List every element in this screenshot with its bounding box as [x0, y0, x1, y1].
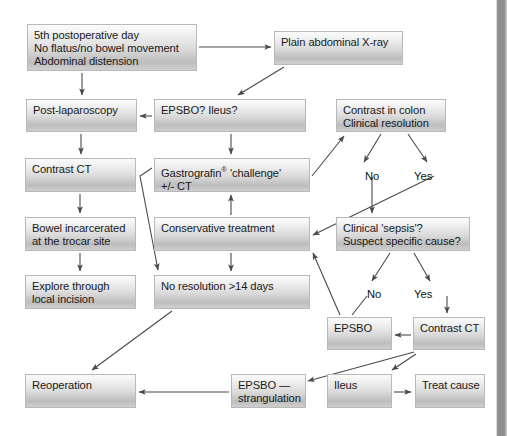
edge-n14-to-n17: [392, 354, 416, 370]
node-n5[interactable]: Contrast in colon Clinical resolution: [336, 99, 446, 132]
edge-label-l1: No: [365, 170, 379, 182]
edge-n12-to-n15: [92, 311, 172, 370]
flowchart-canvas: 5th postoperative day No flatus/no bowel…: [0, 0, 507, 436]
edge-n10-to-l4: [414, 253, 430, 281]
node-n10[interactable]: Clinical 'sepsis'? Suspect specific caus…: [336, 217, 470, 251]
edge-label-l3: No: [367, 288, 381, 300]
node-n16[interactable]: EPSBO — strangulation: [231, 374, 306, 408]
node-n9[interactable]: Conservative treatment: [154, 217, 310, 251]
edge-n5-to-l2: [408, 134, 427, 162]
node-n12[interactable]: No resolution >14 days: [154, 275, 310, 309]
edge-n13-to-n9: [313, 253, 340, 315]
edge-n7-to-n5: [312, 136, 344, 176]
registered-trademark-icon: ®: [221, 165, 227, 174]
node-n3[interactable]: Post-laparoscopy: [26, 99, 137, 132]
node-n11[interactable]: Explore through local incision: [25, 275, 136, 309]
edge-label-l4: Yes: [414, 288, 432, 300]
page-edge-band: [495, 0, 507, 436]
edge-label-l2: Yes: [414, 170, 432, 182]
node-n4[interactable]: EPSBO? Ileus?: [154, 99, 306, 132]
edge-l3-to-n13: [352, 296, 367, 315]
edge-n5-to-l1: [364, 134, 381, 162]
node-n15[interactable]: Reoperation: [25, 374, 136, 408]
node-n8[interactable]: Bowel incarcerated at the trocar site: [25, 217, 136, 251]
node-n17[interactable]: Ileus: [327, 374, 392, 408]
edge-n2-to-n4: [238, 67, 284, 95]
node-n7[interactable]: Gastrografin® 'challenge' +/- CT: [154, 158, 310, 192]
node-n18[interactable]: Treat cause: [415, 374, 485, 408]
node-n1[interactable]: 5th postoperative day No flatus/no bowel…: [27, 24, 197, 71]
node-n2[interactable]: Plain abdominal X-ray: [274, 31, 403, 65]
node-n6[interactable]: Contrast CT: [25, 158, 136, 192]
node-n13[interactable]: EPSBO: [327, 317, 392, 350]
edge-n10-to-l3: [372, 253, 390, 281]
node-n14[interactable]: Contrast CT: [413, 317, 485, 350]
